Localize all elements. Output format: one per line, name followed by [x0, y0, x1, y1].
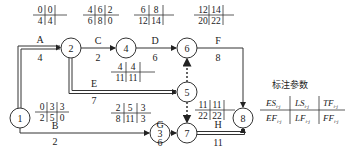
svg-text:8: 8 [241, 113, 246, 124]
svg-text:22: 22 [198, 111, 208, 121]
node-6: 6 [177, 38, 197, 58]
svg-text:8: 8 [154, 5, 159, 15]
svg-text:0: 0 [40, 102, 45, 112]
activity-G-duration: 6 [158, 137, 163, 148]
svg-text:2: 2 [69, 43, 74, 54]
svg-text:11: 11 [125, 114, 134, 124]
svg-text:3: 3 [141, 114, 146, 124]
activity-E-name: E [91, 78, 97, 89]
svg-text:1: 1 [18, 113, 23, 124]
svg-text:3: 3 [141, 103, 146, 113]
node-8: 8 [233, 108, 253, 128]
svg-text:6: 6 [98, 5, 103, 15]
svg-text:20: 20 [198, 16, 208, 26]
params-H: 11 11 22 22 [195, 100, 235, 121]
svg-text:TFi-j: TFi-j [323, 98, 339, 109]
svg-text:0: 0 [38, 5, 43, 15]
network-diagram: 1 2 3 4 5 6 7 8 A 4 B 2 C 2 D 6 E 7 F 8 … [0, 0, 357, 155]
svg-text:14: 14 [211, 5, 221, 15]
svg-text:6: 6 [185, 43, 190, 54]
activity-D-duration: 6 [153, 52, 158, 63]
activity-F-duration: 8 [216, 52, 221, 63]
svg-text:4: 4 [131, 62, 136, 72]
svg-text:EFi-j: EFi-j [265, 113, 282, 124]
activity-F-name: F [215, 35, 221, 46]
node-1: 1 [10, 108, 30, 128]
svg-text:6: 6 [141, 5, 146, 15]
svg-text:4: 4 [118, 62, 123, 72]
svg-text:11: 11 [198, 100, 207, 110]
svg-text:7: 7 [185, 128, 190, 139]
activity-H-duration: 11 [213, 137, 223, 148]
svg-text:2: 2 [40, 113, 45, 123]
params-A: 0 0 4 4 [33, 5, 67, 26]
activity-C-duration: 2 [96, 52, 101, 63]
svg-text:8: 8 [98, 16, 103, 26]
svg-text:22: 22 [211, 16, 221, 26]
svg-text:FFi-j: FFi-j [322, 113, 339, 124]
svg-text:12: 12 [138, 16, 148, 26]
svg-text:0: 0 [108, 16, 113, 26]
svg-text:3: 3 [50, 102, 55, 112]
svg-text:22: 22 [212, 111, 222, 121]
legend-title: 标注参数 [272, 79, 308, 90]
legend: 标注参数 ESi-j LSi-j TFi-j EFi-j LFi-j FFi-j [260, 79, 345, 124]
activity-B-arrow [20, 128, 149, 133]
svg-text:5: 5 [50, 113, 55, 123]
node-2: 2 [61, 38, 81, 58]
activity-A-name: A [36, 34, 44, 45]
svg-text:5: 5 [185, 87, 190, 98]
params-C: 4 6 2 6 8 0 [83, 5, 119, 26]
svg-text:2: 2 [108, 5, 113, 15]
svg-text:11: 11 [212, 100, 221, 110]
svg-text:0: 0 [60, 113, 65, 123]
params-E: 4 4 11 11 [111, 62, 155, 83]
activity-E-duration: 7 [92, 95, 97, 106]
svg-text:6: 6 [88, 16, 93, 26]
params-B: 0 3 3 2 5 0 [35, 102, 69, 123]
activity-D-name: D [151, 35, 158, 46]
svg-text:11: 11 [115, 73, 124, 83]
params-G: 2 5 3 8 11 3 [111, 103, 151, 124]
svg-text:5: 5 [128, 103, 133, 113]
svg-text:3: 3 [60, 102, 65, 112]
svg-text:LFi-j: LFi-j [294, 113, 311, 124]
svg-text:4: 4 [38, 16, 43, 26]
activity-B-duration: 2 [53, 136, 58, 147]
svg-text:11: 11 [128, 73, 137, 83]
node-4: 4 [116, 38, 136, 58]
params-D: 6 8 12 14 [134, 5, 174, 26]
svg-text:4: 4 [88, 5, 93, 15]
activity-G-name: G [156, 119, 163, 130]
svg-text:4: 4 [48, 16, 53, 26]
svg-text:12: 12 [198, 5, 208, 15]
svg-text:4: 4 [124, 43, 129, 54]
svg-text:LSi-j: LSi-j [294, 98, 310, 109]
node-5: 5 [177, 82, 197, 102]
svg-text:14: 14 [151, 16, 161, 26]
params-F: 12 14 20 22 [194, 5, 234, 26]
node-7: 7 [177, 123, 197, 143]
svg-text:ESi-j: ESi-j [265, 98, 281, 109]
svg-text:0: 0 [48, 5, 53, 15]
activity-A-duration: 4 [38, 52, 43, 63]
activity-C-name: C [95, 35, 102, 46]
svg-text:8: 8 [116, 114, 121, 124]
svg-text:2: 2 [116, 103, 121, 113]
